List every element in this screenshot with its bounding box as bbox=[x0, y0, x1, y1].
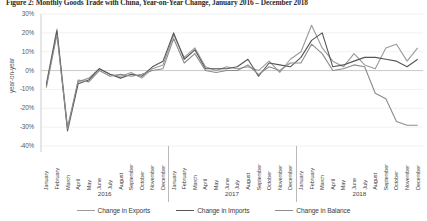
legend-label: Change in Balance bbox=[296, 207, 350, 214]
x-axis-month-labels: JanuaryFebruaryMarchAprilMayJuneJulyAugu… bbox=[0, 146, 427, 190]
x-axis-year-labels: 201620172018 bbox=[0, 190, 427, 202]
x-axis-year-label: 2018 bbox=[339, 190, 379, 197]
x-axis-month-label: January bbox=[298, 171, 304, 190]
chart-svg bbox=[0, 10, 427, 160]
x-axis-month-label: July bbox=[107, 180, 113, 190]
x-axis-month-label: October bbox=[393, 171, 399, 190]
x-axis-month-label: December bbox=[160, 165, 166, 190]
chart-legend: Change in ExportsChange in ImportsChange… bbox=[0, 203, 427, 217]
legend-item[interactable]: Change in Balance bbox=[275, 207, 350, 214]
x-axis-month-label: June bbox=[224, 178, 230, 190]
legend-color-swatch bbox=[176, 210, 194, 211]
series-line bbox=[46, 31, 417, 131]
x-axis-month-label: October bbox=[139, 171, 145, 190]
x-axis-month-label: August bbox=[372, 173, 378, 190]
x-axis-year-label: 2016 bbox=[85, 190, 125, 197]
x-axis-month-label: April bbox=[75, 179, 81, 190]
x-axis-month-label: July bbox=[362, 180, 368, 190]
x-axis-month-label: May bbox=[213, 180, 219, 190]
x-axis-month-label: May bbox=[340, 180, 346, 190]
x-axis-month-label: May bbox=[86, 180, 92, 190]
x-axis-month-label: November bbox=[149, 165, 155, 190]
x-axis-month-label: September bbox=[256, 164, 262, 190]
x-axis-month-label: April bbox=[202, 179, 208, 190]
series-line bbox=[46, 35, 417, 129]
x-axis-month-label: October bbox=[266, 171, 272, 190]
x-axis-month-label: November bbox=[277, 165, 283, 190]
x-axis-month-label: November bbox=[404, 165, 410, 190]
x-axis-month-label: January bbox=[43, 171, 49, 190]
x-axis-month-label: August bbox=[118, 173, 124, 190]
x-axis-month-label: December bbox=[415, 165, 421, 190]
x-axis-month-label: June bbox=[96, 178, 102, 190]
year-separator bbox=[168, 146, 169, 202]
x-axis-month-label: March bbox=[192, 175, 198, 190]
figure-title: Figure 2: Monthly Goods Trade with China… bbox=[6, 0, 424, 7]
x-axis-month-label: February bbox=[181, 168, 187, 190]
legend-color-swatch bbox=[275, 210, 293, 211]
legend-color-swatch bbox=[77, 210, 95, 211]
x-axis-month-label: March bbox=[65, 175, 71, 190]
x-axis-month-label: July bbox=[234, 180, 240, 190]
chart-plot-area: year-on-year 30%20%10%0%-10%-20%-30%-40% bbox=[0, 10, 427, 160]
year-separator bbox=[296, 146, 297, 202]
x-axis-month-label: September bbox=[383, 164, 389, 190]
x-axis-month-label: June bbox=[351, 178, 357, 190]
legend-label: Change in Exports bbox=[98, 207, 151, 214]
legend-item[interactable]: Change in Exports bbox=[77, 207, 151, 214]
x-axis-month-label: April bbox=[330, 179, 336, 190]
x-axis-year-label: 2017 bbox=[212, 190, 252, 197]
series-line bbox=[46, 25, 417, 127]
x-axis-month-label: March bbox=[319, 175, 325, 190]
x-axis-month-label: January bbox=[171, 171, 177, 190]
x-axis-month-label: February bbox=[54, 168, 60, 190]
x-axis-month-label: February bbox=[309, 168, 315, 190]
x-axis-month-label: September bbox=[128, 164, 134, 190]
legend-item[interactable]: Change in Imports bbox=[176, 207, 249, 214]
x-axis-month-label: December bbox=[287, 165, 293, 190]
x-axis-month-label: August bbox=[245, 173, 251, 190]
legend-label: Change in Imports bbox=[197, 207, 249, 214]
